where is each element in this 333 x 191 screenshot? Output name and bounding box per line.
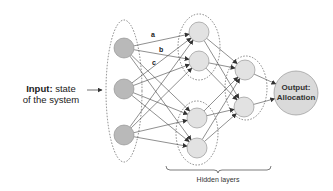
output-label-line2: Allocation bbox=[277, 93, 316, 102]
edge-label-b: b bbox=[159, 46, 163, 53]
input-label: Input: state of the system bbox=[14, 83, 88, 105]
connection-edge bbox=[130, 56, 191, 140]
output-label-line1: Output: bbox=[282, 83, 311, 92]
hidden-layers-label: Hidden layers bbox=[188, 176, 248, 183]
connection-edge bbox=[254, 74, 276, 84]
hidden-node bbox=[234, 97, 254, 117]
input-label-bold: Input: bbox=[26, 83, 52, 94]
connection-edge bbox=[134, 34, 189, 46]
hidden-node bbox=[235, 60, 255, 80]
hidden-node bbox=[187, 108, 207, 128]
input-node bbox=[114, 38, 134, 58]
output-label: Output: Allocation bbox=[274, 83, 318, 103]
input-node bbox=[114, 79, 134, 99]
connection-edge bbox=[209, 63, 235, 68]
edge-label-c: c bbox=[152, 59, 156, 66]
input-node bbox=[114, 125, 134, 145]
connections bbox=[130, 34, 276, 146]
connection-edge bbox=[132, 38, 191, 83]
edge-label-a: a bbox=[151, 31, 155, 38]
hidden-node bbox=[189, 22, 209, 42]
input-label-rest: state bbox=[53, 83, 76, 94]
connection-edge bbox=[206, 68, 237, 100]
connection-edge bbox=[204, 77, 238, 111]
connection-edge bbox=[134, 120, 188, 132]
hidden-node bbox=[187, 138, 207, 158]
connection-edge bbox=[207, 38, 238, 63]
connection-edge bbox=[134, 137, 187, 146]
hidden-layers-bracket bbox=[166, 166, 271, 173]
input-label-line2: of the system bbox=[23, 94, 80, 105]
connection-edge bbox=[204, 41, 239, 99]
hidden-node bbox=[189, 51, 209, 71]
